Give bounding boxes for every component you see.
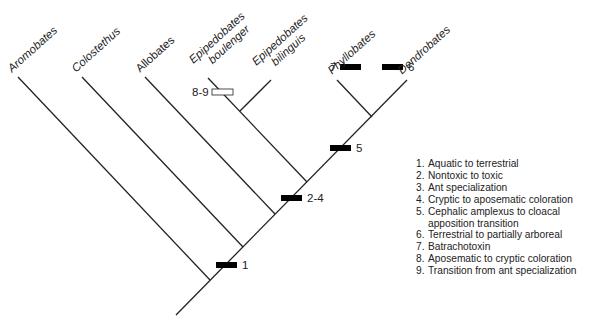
legend-item: 5.Cephalic amplexus to cloacal xyxy=(416,206,577,218)
branch-aromobates xyxy=(18,77,210,280)
legend-item: 8.Aposematic to cryptic coloration xyxy=(416,253,577,265)
marker-2-4 xyxy=(281,195,302,201)
marker-5 xyxy=(330,145,351,151)
legend-item: 7.Batrachotoxin xyxy=(416,241,577,253)
legend-item: 6.Terrestrial to partially arboreal xyxy=(416,229,577,241)
branch-colostethus xyxy=(82,77,243,247)
marker-label-6: 6 xyxy=(408,61,414,73)
marker-label-8-9: 8-9 xyxy=(192,86,209,98)
character-legend: 1.Aquatic to terrestrial 2.Nontoxic to t… xyxy=(416,158,577,277)
branch-phyllobates xyxy=(337,80,372,117)
branch-epipedobates-bilinguis xyxy=(240,80,271,111)
legend-item: 9.Transition from ant specialization xyxy=(416,265,577,277)
branch-allobates xyxy=(145,77,275,214)
marker-label-7: 7 xyxy=(330,61,336,73)
marker-8-9 xyxy=(212,89,233,95)
legend-item: 2.Nontoxic to toxic xyxy=(416,170,577,182)
marker-label-2-4: 2-4 xyxy=(307,192,324,204)
marker-1 xyxy=(216,262,237,268)
marker-label-1: 1 xyxy=(242,259,248,271)
legend-item: 3.Ant specialization xyxy=(416,182,577,194)
legend-item: 1.Aquatic to terrestrial xyxy=(416,158,577,170)
legend-item: apposition transition xyxy=(416,218,577,230)
legend-item: 4.Cryptic to aposematic coloration xyxy=(416,194,577,206)
marker-label-5: 5 xyxy=(356,142,362,154)
